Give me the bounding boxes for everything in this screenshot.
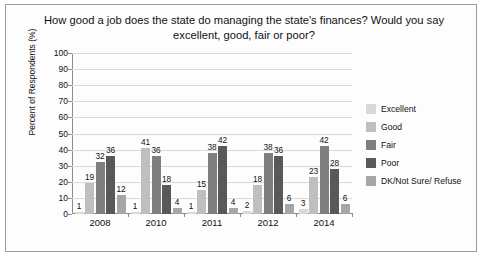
bar-group: 14136184 (128, 53, 184, 214)
bar (96, 162, 105, 214)
y-tick-mark (68, 198, 72, 199)
x-tick-label: 2011 (182, 217, 242, 228)
chart-legend: ExcellentGoodFairPoorDK/Not Sure/ Refuse (366, 100, 476, 190)
bar-value-label: 42 (213, 135, 233, 145)
y-tick-mark (68, 134, 72, 135)
y-tick-label: 90 (40, 64, 68, 74)
bar (187, 212, 196, 214)
legend-swatch (366, 122, 376, 132)
legend-swatch (366, 140, 376, 150)
legend-label: Excellent (381, 104, 416, 114)
bar (264, 153, 273, 214)
bar (131, 212, 140, 214)
legend-label: Poor (381, 158, 399, 168)
bar (208, 153, 217, 214)
chart-frame: How good a job does the state do managin… (5, 4, 477, 252)
x-tick-label: 2012 (238, 217, 298, 228)
y-tick-label: 40 (40, 145, 68, 155)
legend-item: Poor (366, 154, 476, 172)
y-tick-mark (68, 69, 72, 70)
y-tick-label: 20 (40, 177, 68, 187)
bar (274, 156, 283, 214)
plot-area: 1193236121413618411538424218383663234228… (72, 53, 352, 214)
y-tick-mark (68, 85, 72, 86)
y-tick-label: 0 (40, 209, 68, 219)
bar (330, 169, 339, 214)
bar-value-label: 36 (101, 145, 121, 155)
chart-title: How good a job does the state do managin… (44, 13, 444, 43)
y-tick-label: 100 (40, 48, 68, 58)
bar-group: 119323612 (72, 53, 128, 214)
x-tick-label: 2010 (126, 217, 186, 228)
bar-value-label: 6 (335, 193, 355, 203)
bar-value-label: 36 (146, 145, 166, 155)
bar (85, 183, 94, 214)
bar (341, 204, 350, 214)
legend-swatch (366, 104, 376, 114)
legend-label: Good (381, 122, 402, 132)
legend-item: Good (366, 118, 476, 136)
legend-label: DK/Not Sure/ Refuse (381, 176, 461, 186)
bar-value-label: 42 (314, 135, 334, 145)
bar (243, 211, 252, 214)
bar-group: 32342286 (296, 53, 352, 214)
bar (309, 177, 318, 214)
bar (320, 146, 329, 214)
x-tick-mark (352, 213, 353, 217)
legend-label: Fair (381, 140, 396, 150)
legend-item: Fair (366, 136, 476, 154)
bar (141, 148, 150, 214)
y-tick-label: 30 (40, 161, 68, 171)
y-tick-mark (68, 117, 72, 118)
y-tick-mark (68, 150, 72, 151)
y-tick-label: 10 (40, 193, 68, 203)
y-tick-label: 60 (40, 112, 68, 122)
y-tick-label: 70 (40, 96, 68, 106)
bar-value-label: 18 (157, 174, 177, 184)
bar (197, 190, 206, 214)
bar-group: 11538424 (184, 53, 240, 214)
y-tick-label: 50 (40, 129, 68, 139)
y-tick-mark (68, 101, 72, 102)
y-tick-mark (68, 214, 72, 215)
legend-swatch (366, 176, 376, 186)
bar-group: 21838366 (240, 53, 296, 214)
y-tick-mark (68, 182, 72, 183)
bar (152, 156, 161, 214)
y-tick-mark (68, 166, 72, 167)
y-axis-ticks: 0102030405060708090100 (36, 53, 68, 214)
legend-item: DK/Not Sure/ Refuse (366, 172, 476, 190)
x-tick-label: 2008 (70, 217, 130, 228)
bar (253, 185, 262, 214)
bar-value-label: 28 (325, 158, 345, 168)
x-tick-label: 2014 (294, 217, 354, 228)
legend-item: Excellent (366, 100, 476, 118)
bar-value-label: 36 (269, 145, 289, 155)
y-tick-mark (68, 53, 72, 54)
y-tick-label: 80 (40, 80, 68, 90)
bar (299, 209, 308, 214)
legend-swatch (366, 158, 376, 168)
bar (75, 212, 84, 214)
